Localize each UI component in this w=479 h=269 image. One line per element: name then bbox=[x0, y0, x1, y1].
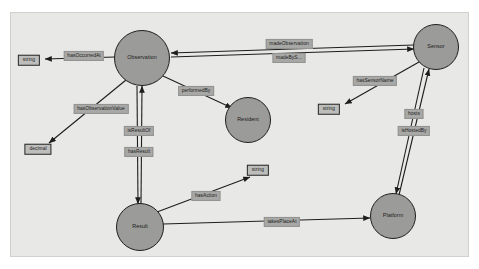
diagram-canvas: ObservationSensorResidentResultPlatform … bbox=[0, 0, 479, 269]
edge-performedBy bbox=[163, 76, 232, 108]
edge-hasSensorName bbox=[345, 62, 419, 104]
edge-hasAction bbox=[157, 177, 250, 212]
edge-madeBySensor bbox=[171, 49, 414, 57]
edge-isHostedBy bbox=[396, 68, 424, 194]
node-platform[interactable] bbox=[370, 193, 416, 239]
node-result[interactable] bbox=[116, 203, 164, 251]
edge-hosts bbox=[399, 69, 429, 195]
edge-hasResult bbox=[137, 86, 138, 204]
node-sensor[interactable] bbox=[413, 24, 459, 70]
edge-isResultOf bbox=[141, 86, 142, 204]
edge-takesPlaceAt bbox=[163, 218, 370, 224]
edge-madeObservation bbox=[171, 45, 414, 53]
node-resident[interactable] bbox=[225, 97, 271, 143]
node-observation[interactable] bbox=[114, 30, 170, 86]
edge-hasObservationValue bbox=[49, 80, 126, 143]
edge-hasOccurredAt bbox=[45, 57, 115, 59]
